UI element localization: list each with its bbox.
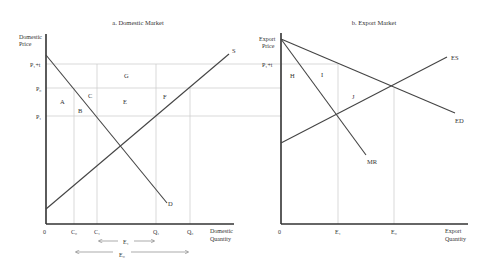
export-market-panel: b. Export Market Export Price P₁+t ES ED… (259, 19, 468, 242)
domestic-quantity-label-line2: Quantity (210, 236, 231, 242)
span-e1: E₁ (99, 239, 154, 245)
span-e0: E₀ (76, 252, 188, 258)
domestic-market-title: a. Domestic Market (112, 19, 164, 26)
tick-e0: E₀ (391, 229, 397, 235)
export-supply-curve (281, 57, 447, 143)
area-h: H (290, 72, 295, 79)
area-f: F (163, 93, 167, 100)
span-e1-label: E₁ (123, 239, 129, 245)
tick-q0: Q₀ (187, 229, 193, 235)
tick-p1: P₁ (36, 114, 41, 120)
export-supply-label: ES (451, 54, 459, 61)
tick-c0: C₀ (71, 229, 77, 235)
demand-label: D (168, 200, 173, 207)
domestic-price-label-line1: Domestic (19, 34, 42, 40)
area-i: I (321, 71, 323, 78)
supply-curve (46, 54, 229, 209)
area-a: A (60, 98, 65, 105)
trade-diagram: a. Domestic Market Domestic Price S D P₁… (0, 0, 490, 265)
export-demand-curve (281, 39, 455, 113)
export-demand-label: ED (455, 117, 464, 124)
area-c: C (88, 92, 92, 99)
area-e: E (123, 98, 127, 105)
domestic-quantity-label-line1: Domestic (210, 228, 233, 234)
export-origin: 0 (278, 229, 281, 235)
tick-p0: P₀ (36, 86, 41, 92)
tick-e1: E₁ (335, 229, 341, 235)
export-quantity-label-line2: Quantity (445, 236, 466, 242)
export-price-label-line2: Price (262, 43, 275, 49)
domestic-price-label-line2: Price (19, 41, 32, 47)
domestic-origin: 0 (43, 229, 46, 235)
tick-q1: Q₁ (153, 229, 159, 235)
supply-label: S (232, 47, 236, 54)
export-market-title: b. Export Market (352, 19, 397, 26)
span-e0-label: E₀ (119, 252, 125, 258)
tick-p1t: P₁+t (30, 62, 41, 68)
area-g: G (124, 72, 129, 79)
area-b: B (78, 107, 83, 114)
demand-curve (46, 55, 167, 203)
area-j: J (352, 93, 355, 100)
tick-export-p1t: P₁+t (262, 62, 273, 68)
tick-c1: C₁ (94, 229, 100, 235)
export-quantity-label-line1: Export (445, 228, 462, 234)
export-price-label-line1: Export (259, 36, 276, 42)
domestic-market-panel: a. Domestic Market Domestic Price S D P₁… (19, 19, 281, 258)
marginal-revenue-label: MR (367, 158, 378, 165)
